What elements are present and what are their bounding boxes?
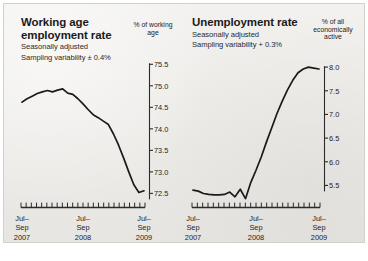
y-tick-label: 72.5 <box>154 189 168 198</box>
y-axis-tick-labels-unemployment: 8.07.57.06.56.05.5 <box>329 4 355 244</box>
x-axis-tick-labels-unemployment: Jul–Sep2007Jul–Sep2008Jul–Sep2009 <box>182 214 363 246</box>
y-tick-label: 74.0 <box>154 124 168 133</box>
x-tick-label: Jul–Sep2007 <box>185 214 201 242</box>
plot-area-employment: 75.575.074.574.073.573.072.5 Jul–Sep2007… <box>4 4 185 244</box>
chart-employment-rate: Working age employment rate Seasonally a… <box>4 4 185 244</box>
y-tick-label: 8.0 <box>329 63 339 72</box>
y-tick-label: 6.5 <box>329 134 339 143</box>
y-tick-label: 73.5 <box>154 146 168 155</box>
chart-unemployment-rate: Unemployment rate Seasonally adjusted Sa… <box>182 4 363 244</box>
x-tick-label: Jul–Sep2009 <box>136 214 152 242</box>
y-tick-label: 6.0 <box>329 157 339 166</box>
x-axis-ruler-unemployment <box>192 203 320 208</box>
y-axis-unemployment <box>325 66 329 191</box>
y-tick-label: 75.5 <box>154 60 168 69</box>
y-tick-label: 5.5 <box>329 181 339 190</box>
chart-panel: Working age employment rate Seasonally a… <box>3 3 365 243</box>
y-tick-label: 73.0 <box>154 167 168 176</box>
y-tick-label: 7.0 <box>329 110 339 119</box>
figure-root: Working age employment rate Seasonally a… <box>0 0 368 261</box>
y-tick-label: 75.0 <box>154 81 168 90</box>
x-tick-label: Jul–Sep2008 <box>75 214 91 242</box>
y-axis-tick-labels-employment: 75.575.074.574.073.573.072.5 <box>154 4 180 244</box>
x-tick-label: Jul–Sep2008 <box>248 214 264 242</box>
series-line-employment <box>22 89 144 193</box>
y-tick-label: 7.5 <box>329 86 339 95</box>
x-axis-ruler-employment <box>21 203 145 208</box>
y-tick-label: 74.5 <box>154 103 168 112</box>
plot-area-unemployment: 8.07.57.06.56.05.5 Jul–Sep2007Jul–Sep200… <box>182 4 363 244</box>
series-line-unemployment <box>193 67 319 199</box>
x-tick-label: Jul–Sep2007 <box>14 214 30 242</box>
x-axis-tick-labels-employment: Jul–Sep2007Jul–Sep2008Jul–Sep2009 <box>4 214 185 246</box>
x-tick-label: Jul–Sep2009 <box>311 214 327 242</box>
y-axis-employment <box>150 63 154 199</box>
